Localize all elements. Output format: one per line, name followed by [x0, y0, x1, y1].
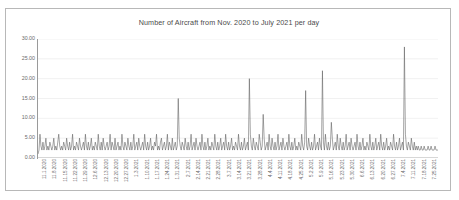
y-axis-tick: 25.00: [22, 56, 35, 61]
x-axis-tick: 3.7.2021: [228, 159, 233, 177]
x-axis-tick: 5.16.2021: [330, 159, 335, 179]
x-axis-tick: 1.10.2021: [146, 159, 151, 179]
x-axis-tick: 11.22.2020: [74, 159, 79, 182]
x-axis-tick: 7.18.2021: [423, 159, 428, 179]
x-axis-tick: 1.3.2021: [135, 159, 140, 177]
x-axis-tick: 1.31.2021: [176, 159, 181, 179]
plot-canvas: [38, 39, 438, 158]
x-axis-tick: 6.6.2021: [361, 159, 366, 177]
x-axis-tick: 12.13.2020: [105, 159, 110, 182]
chart-screenshot: Number of Aircraft from Nov. 2020 to Jul…: [0, 0, 459, 200]
x-axis-tick: 7.25.2021: [433, 159, 438, 179]
y-axis-tick: 15.00: [22, 96, 35, 101]
x-axis-tick: 3.28.2021: [259, 159, 264, 179]
x-axis-tick: 7.4.2021: [402, 159, 407, 177]
y-axis-tick: 20.00: [22, 76, 35, 81]
x-axis-tick: 5.9.2021: [320, 159, 325, 177]
series-line-chart: [38, 39, 438, 158]
x-axis-tick: 11.1.2020: [43, 159, 48, 179]
y-axis-tick: 30.00: [22, 36, 35, 41]
x-axis-tick: 1.24.2021: [166, 159, 171, 179]
x-axis-tick: 6.20.2021: [382, 159, 387, 179]
y-axis-tick: 10.00: [22, 116, 35, 121]
x-axis-tick: 6.13.2021: [371, 159, 376, 179]
x-axis-tick: 11.29.2020: [84, 159, 89, 182]
x-axis-tick: 2.28.2021: [217, 159, 222, 179]
x-axis-labels: 11.1.202011.8.202011.15.202011.22.202011…: [38, 159, 438, 199]
x-axis-tick: 5.30.2021: [351, 159, 356, 179]
plot-area: [38, 39, 438, 158]
x-axis-tick: 3.14.2021: [238, 159, 243, 179]
x-axis-tick: 4.18.2021: [289, 159, 294, 179]
x-axis-tick: 4.4.2021: [269, 159, 274, 177]
x-axis-tick: 2.7.2021: [187, 159, 192, 177]
x-axis-tick: 5.2.2021: [310, 159, 315, 177]
x-axis-tick: 5.23.2021: [341, 159, 346, 179]
chart-frame: Number of Aircraft from Nov. 2020 to Jul…: [5, 8, 451, 191]
x-axis-tick: 11.15.2020: [64, 159, 69, 182]
x-axis-tick: 12.6.2020: [94, 159, 99, 179]
x-axis-tick: 12.27.2020: [125, 159, 130, 182]
y-axis-tick: 0.00: [25, 155, 35, 160]
x-axis-tick: 12.20.2020: [115, 159, 120, 182]
x-axis-tick: 4.25.2021: [300, 159, 305, 179]
x-axis-tick: 4.11.2021: [279, 159, 284, 179]
x-axis-tick: 11.8.2020: [53, 159, 58, 179]
x-axis-tick: 1.17.2021: [156, 159, 161, 179]
x-axis-tick: 7.11.2021: [412, 159, 417, 179]
x-axis-tick: 2.14.2021: [197, 159, 202, 179]
x-axis-tick: 3.21.2021: [248, 159, 253, 179]
x-axis-tick: 2.21.2021: [207, 159, 212, 179]
chart-title: Number of Aircraft from Nov. 2020 to Jul…: [6, 18, 452, 27]
y-axis-tick: 5.00: [25, 136, 35, 141]
x-axis-tick: 6.27.2021: [392, 159, 397, 179]
y-axis-labels: 0.005.0010.0015.0020.0025.0030.00: [11, 39, 37, 158]
